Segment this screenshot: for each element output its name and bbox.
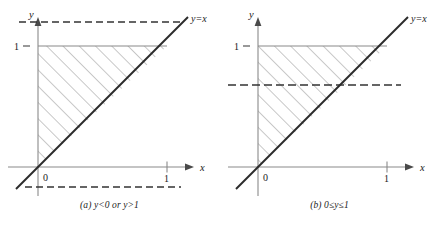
panel-a: y x 0 1 1 y=x (a) y<0 or y>1 xyxy=(0,0,219,234)
x-axis-label-a: x xyxy=(199,162,205,173)
caption-a-text: (a) y<0 or y>1 xyxy=(80,200,139,210)
x-tick-label-1-a: 1 xyxy=(164,173,169,184)
y-axis-label-a: y xyxy=(28,9,34,20)
x-tick-label-1-b: 1 xyxy=(384,173,389,184)
line-label-y-equals-x-a: y=x xyxy=(190,13,207,24)
origin-label-b: 0 xyxy=(263,172,268,183)
origin-label-a: 0 xyxy=(43,172,48,183)
y-axis-label-b: y xyxy=(248,9,254,20)
plot-a: y x 0 1 1 y=x xyxy=(0,0,219,200)
panel-b: y x 0 1 1 y=x (b) 0≤y≤1 xyxy=(220,0,439,234)
x-axis-label-b: x xyxy=(419,162,425,173)
caption-a: (a) y<0 or y>1 xyxy=(0,200,219,210)
y-tick-label-1-b: 1 xyxy=(234,41,239,52)
caption-b: (b) 0≤y≤1 xyxy=(220,200,439,210)
figure-container: y x 0 1 1 y=x (a) y<0 or y>1 xyxy=(0,0,439,234)
line-label-y-equals-x-b: y=x xyxy=(410,13,427,24)
y-tick-label-1-a: 1 xyxy=(14,41,19,52)
plot-b: y x 0 1 1 y=x xyxy=(220,0,439,200)
caption-b-text: (b) 0≤y≤1 xyxy=(310,200,349,210)
